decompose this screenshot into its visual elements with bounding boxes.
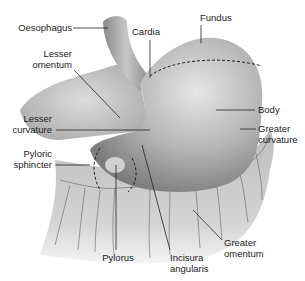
label-greater-omentum-line2: omentum [224, 248, 264, 259]
label-pyloric-sphincter-line1: Pyloric [2, 148, 52, 159]
label-oesophagus: Oesophagus [8, 22, 72, 33]
label-fundus: Fundus [200, 12, 232, 23]
label-lesser-omentum: Lesser omentum [20, 48, 72, 70]
label-greater-curvature-line1: Greater [258, 123, 298, 134]
label-body: Body [258, 104, 280, 115]
label-incisura-line1: Incisura [170, 252, 209, 263]
label-greater-omentum: Greater omentum [224, 237, 264, 259]
label-incisura-angularis: Incisura angularis [170, 252, 209, 274]
label-lesser-omentum-line2: omentum [20, 59, 72, 70]
label-lesser-curvature-line1: Lesser [0, 113, 52, 124]
label-cardia: Cardia [132, 26, 160, 37]
label-lesser-curvature: Lesser curvature [0, 113, 52, 135]
label-pyloric-sphincter-line2: sphincter [2, 159, 52, 170]
label-lesser-curvature-line2: curvature [0, 124, 52, 135]
label-greater-omentum-line1: Greater [224, 237, 264, 248]
label-greater-curvature: Greater curvature [258, 123, 298, 145]
label-pyloric-sphincter: Pyloric sphincter [2, 148, 52, 170]
label-greater-curvature-line2: curvature [258, 134, 298, 145]
label-pylorus: Pylorus [98, 252, 138, 263]
label-lesser-omentum-line1: Lesser [20, 48, 72, 59]
label-incisura-line2: angularis [170, 263, 209, 274]
